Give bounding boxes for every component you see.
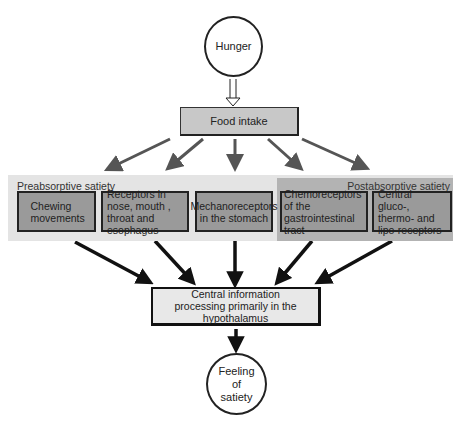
arrow-food-to-gi xyxy=(268,139,297,165)
central-processing-box: Central information processing primarily… xyxy=(151,287,321,326)
satiety-label: Feeling of satiety xyxy=(215,365,259,404)
receptor-box-central-receptors: Central gluco-, thermo- and lipo-recepto… xyxy=(372,191,452,232)
receptor-box-chewing: Chewing movements xyxy=(17,191,96,232)
arrow-food-to-chewing xyxy=(112,139,170,167)
receptor-label: Receptors in nose, mouth , throat and es… xyxy=(107,188,183,236)
arrow-gi-to-central xyxy=(280,241,312,279)
receptor-label: Mechanoreceptors in the stomach xyxy=(191,200,278,224)
hunger-node: Hunger xyxy=(204,16,263,77)
receptor-box-nose-mouth: Receptors in nose, mouth , throat and es… xyxy=(101,191,189,232)
arrow-chewing-to-central xyxy=(75,242,146,280)
receptor-label: Central gluco-, thermo- and lipo-recepto… xyxy=(378,188,446,236)
food-intake-box: Food intake xyxy=(180,107,299,136)
receptor-label: Chewing movements xyxy=(31,200,83,224)
satiety-node: Feeling of satiety xyxy=(206,353,267,415)
receptor-label: Chemoreceptors of the gastrointestinal t… xyxy=(284,188,364,236)
arrow-lipo-to-central xyxy=(322,241,392,280)
arrow-food-to-nose xyxy=(172,139,203,165)
arrow-food-to-central-receptors xyxy=(302,139,362,166)
food-intake-label: Food intake xyxy=(210,115,267,127)
hunger-label: Hunger xyxy=(215,40,251,53)
receptor-box-mechanoreceptors: Mechanoreceptors in the stomach xyxy=(195,191,273,232)
central-processing-label: Central information processing primarily… xyxy=(171,288,301,324)
double-arrow-hunger-to-food xyxy=(226,79,240,106)
arrow-nose-to-central xyxy=(155,241,190,279)
receptor-box-chemoreceptors: Chemoreceptors of the gastrointestinal t… xyxy=(280,191,368,232)
